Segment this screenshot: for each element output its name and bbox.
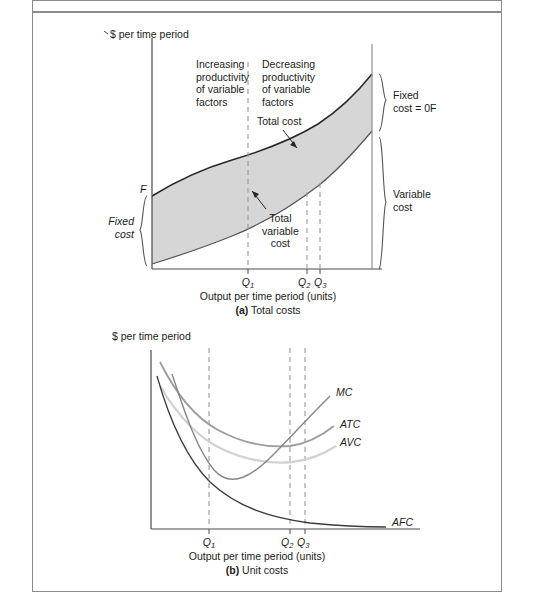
panel-b-y-axis-label: $ per time period [112,330,191,343]
annotation-fixed-cost-right: Fixed cost = 0F [393,89,436,114]
mc-curve [172,374,330,479]
annotation-total-cost: Total cost [257,115,301,128]
annotation-total-variable-cost: Total variable cost [262,212,299,250]
panel-a-graphic [0,0,534,318]
panel-a-x-axis-label: Output per time period (units) [168,290,368,303]
panel-a-total-costs: $ per time period Increasing productivit… [0,0,534,318]
panel-a-caption: (a) Total costs [168,304,368,317]
panel-a-caption-marker: (a) [235,304,248,316]
atc-curve [160,362,334,446]
panel-b-caption: (b) Unit costs [157,564,357,577]
afc-curve [157,376,386,527]
panel-b-x-axis-label: Output per time period (units) [157,550,357,563]
y-axis-tick-marker [104,31,108,34]
curve-label-mc: MC [336,386,352,399]
brace-variable-cost-right [379,137,386,269]
panel-a-caption-text: Total costs [248,304,300,316]
curve-label-avc: AVC [340,436,361,449]
brace-fixed-cost-right [379,74,386,131]
panel-a-y-axis-label: $ per time period [110,28,189,41]
annotation-increasing-productivity: Increasing productivity of variable fact… [196,58,249,108]
curve-label-atc: ATC [340,418,360,431]
annotation-decreasing-productivity: Decreasing productivity of variable fact… [262,58,315,108]
figure-container: $ per time period Increasing productivit… [0,0,534,601]
panel-b-caption-marker: (b) [226,564,239,576]
curve-label-afc: AFC [392,516,413,529]
panel-b-unit-costs: $ per time period MC ATC AVC AFC Q1 Q2 Q… [0,318,534,592]
annotation-fixed-cost-left: Fixed cost [78,215,134,240]
label-fixed-cost-intercept-f: F [140,183,146,196]
panel-b-caption-text: Unit costs [239,564,288,576]
brace-fixed-cost-left [140,196,147,266]
annotation-variable-cost-right: Variable cost [393,188,431,213]
